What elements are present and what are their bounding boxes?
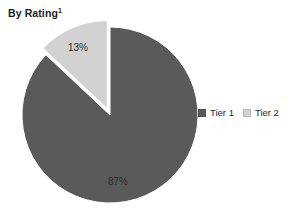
chart-legend: Tier 1Tier 2 bbox=[198, 108, 279, 118]
pie-data-label-tier-1: 87% bbox=[108, 176, 128, 187]
legend-swatch-tier-1 bbox=[198, 109, 206, 117]
legend-item-tier-1[interactable]: Tier 1 bbox=[198, 108, 234, 118]
legend-label: Tier 1 bbox=[210, 108, 234, 118]
pie-chart-figure: By Rating1 87%13% Tier 1Tier 2 bbox=[0, 0, 300, 218]
legend-label: Tier 2 bbox=[255, 108, 279, 118]
legend-swatch-tier-2 bbox=[243, 109, 251, 117]
pie-data-label-tier-2: 13% bbox=[68, 42, 88, 53]
legend-item-tier-2[interactable]: Tier 2 bbox=[243, 108, 279, 118]
